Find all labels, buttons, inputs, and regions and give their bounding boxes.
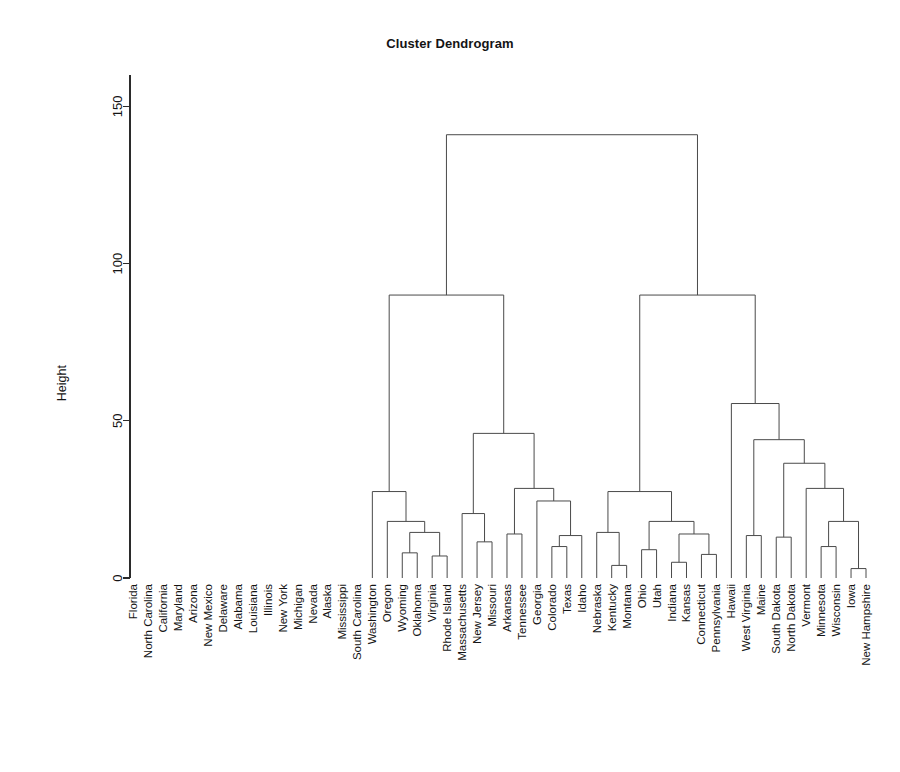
dendrogram-link [851, 569, 866, 578]
dendrogram-link [446, 135, 697, 295]
leaf-label: Minnesota [815, 583, 827, 637]
leaf-label: Washington [366, 584, 378, 644]
y-axis-title-text: Height [55, 364, 69, 401]
dendrogram-link [402, 553, 417, 578]
dendrogram-link [701, 554, 716, 578]
y-axis-title: Height [55, 364, 69, 401]
leaf-label: Ohio [636, 584, 648, 608]
leaf-label: New York [277, 584, 289, 633]
y-axis: 050100150 [110, 75, 131, 582]
leaf-label: Alabama [232, 583, 244, 629]
dendrogram-link [514, 488, 553, 534]
leaf-label: Florida [127, 583, 139, 619]
dendrogram-link [608, 492, 672, 533]
leaf-label: Nebraska [591, 583, 603, 633]
leaf-label: South Carolina [351, 583, 363, 660]
leaf-label: New Hampshire [860, 584, 872, 666]
leaf-label: Hawaii [725, 584, 737, 619]
dendrogram-link [784, 463, 825, 537]
dendrogram-link [612, 565, 627, 578]
leaf-label: Kentucky [606, 584, 618, 632]
leaf-label: Arizona [187, 583, 199, 623]
leaf-label: Montana [621, 583, 633, 628]
leaf-label: Wisconsin [830, 584, 842, 636]
leaf-label: Oregon [381, 584, 393, 622]
dendrogram-link [776, 537, 791, 578]
leaf-label: Alaska [321, 583, 333, 618]
dendrogram-link [462, 514, 484, 578]
leaf-label: Pennsylvania [710, 583, 722, 652]
leaf-label: Wyoming [396, 584, 408, 632]
dendrogram-link [746, 536, 761, 578]
dendrogram-link [473, 433, 534, 513]
dendrogram-link [731, 404, 779, 578]
dendrogram-leaf-labels: FloridaNorth CarolinaCaliforniaMarylandA… [127, 583, 872, 666]
dendrogram-link [829, 521, 859, 568]
leaf-label: Utah [651, 584, 663, 608]
leaf-label: North Dakota [785, 583, 797, 651]
dendrogram-link [537, 501, 571, 578]
dendrogram-link [672, 562, 687, 578]
dendrogram-link [754, 440, 804, 536]
dendrogram-link [389, 295, 504, 491]
dendrogram-link [806, 488, 843, 578]
dendrogram-link [640, 295, 755, 491]
dendrogram-link [642, 550, 657, 578]
dendrogram-link [477, 542, 492, 578]
y-axis-tick-label: 150 [110, 96, 125, 118]
dendrogram-links [372, 135, 866, 578]
leaf-label: South Dakota [770, 583, 782, 653]
y-axis-tick-label: 100 [110, 253, 125, 275]
leaf-label: Vermont [800, 583, 812, 627]
dendrogram-link [507, 534, 522, 578]
cluster-dendrogram-plot: Cluster Dendrogram 050100150 Height Flor… [0, 0, 900, 772]
dendrogram-link [387, 521, 424, 578]
leaf-label: Iowa [845, 583, 857, 608]
leaf-label: California [157, 583, 169, 632]
dendrogram-link [559, 536, 581, 578]
leaf-label: West Virginia [740, 583, 752, 651]
leaf-label: Missouri [486, 584, 498, 627]
dendrogram-link [649, 521, 694, 549]
leaf-label: North Carolina [142, 583, 154, 658]
leaf-label: Maryland [172, 584, 184, 631]
leaf-label: Michigan [292, 584, 304, 630]
dendrogram-link [821, 547, 836, 578]
leaf-label: Texas [561, 584, 573, 614]
leaf-label: Mississippi [336, 584, 348, 640]
dendrogram-canvas: 050100150 Height FloridaNorth CarolinaCa… [0, 0, 900, 772]
dendrogram-link [679, 534, 709, 562]
leaf-label: Colorado [546, 584, 558, 631]
leaf-label: Indiana [666, 583, 678, 621]
leaf-label: Georgia [531, 583, 543, 625]
leaf-label: Idaho [576, 584, 588, 613]
leaf-label: Kansas [680, 584, 692, 623]
leaf-label: New Mexico [202, 584, 214, 647]
leaf-label: Rhode Island [441, 584, 453, 652]
leaf-label: Illinois [262, 584, 274, 616]
dendrogram-link [432, 556, 447, 578]
leaf-label: Connecticut [695, 583, 707, 645]
y-axis-tick-label: 0 [110, 574, 125, 581]
leaf-label: Nevada [307, 583, 319, 623]
leaf-label: Virginia [426, 583, 438, 622]
dendrogram-link [552, 547, 567, 578]
leaf-label: Maine [755, 584, 767, 615]
leaf-label: Delaware [217, 584, 229, 633]
dendrogram-link [372, 492, 406, 578]
y-axis-tick-label: 50 [110, 414, 125, 428]
leaf-label: Oklahoma [411, 583, 423, 636]
leaf-label: Louisiana [247, 583, 259, 633]
leaf-label: Tennessee [516, 584, 528, 640]
leaf-label: New Jersey [471, 584, 483, 644]
dendrogram-link [597, 532, 619, 578]
leaf-label: Massachusetts [456, 584, 468, 661]
leaf-label: Arkansas [501, 584, 513, 632]
